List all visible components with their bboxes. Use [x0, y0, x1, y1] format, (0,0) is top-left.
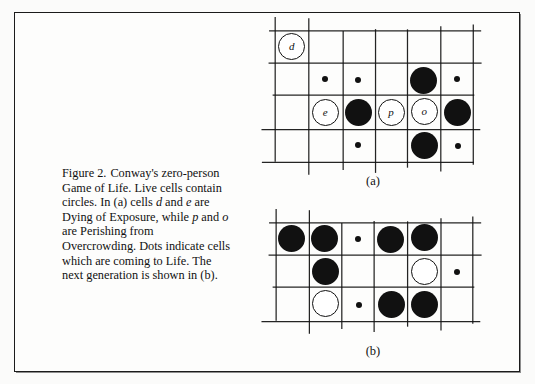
live-cell-filled — [411, 224, 438, 251]
life-grid-a: depo — [260, 14, 490, 178]
birth-dot — [455, 143, 461, 149]
caption-body: Conway's zero-person Game of Life. Live … — [62, 166, 230, 282]
birth-dot — [355, 236, 361, 242]
birth-dot — [356, 302, 362, 308]
figure-a-label: (a) — [353, 174, 393, 189]
cell-letter-e: e — [313, 100, 338, 125]
labeled-cell-o: o — [411, 98, 438, 125]
live-cell-filled — [410, 67, 437, 94]
live-cell-filled — [378, 291, 405, 318]
caption-figure-number: Figure 2. — [62, 166, 106, 180]
figure-page: Figure 2.Conway's zero-person Game of Li… — [0, 0, 535, 384]
live-cell-filled — [345, 99, 372, 126]
cell-letter-d: d — [279, 34, 304, 59]
cell-letter-o: o — [412, 99, 437, 124]
figure-b-label: (b) — [353, 344, 393, 359]
labeled-cell-d: d — [278, 33, 305, 60]
caption-italic-p: p — [192, 210, 198, 224]
caption-italic-d: d — [156, 195, 162, 209]
birth-dot — [355, 77, 361, 83]
live-cell-open — [312, 290, 339, 317]
live-cell-filled — [377, 226, 404, 253]
live-cell-filled — [278, 225, 305, 252]
labeled-cell-p: p — [378, 99, 405, 126]
figure-caption: Figure 2.Conway's zero-person Game of Li… — [62, 166, 230, 283]
cell-letter-p: p — [379, 100, 404, 125]
birth-dot — [454, 269, 460, 275]
caption-italic-e: e — [186, 195, 191, 209]
labeled-cell-e: e — [312, 99, 339, 126]
life-grid-b — [260, 206, 490, 337]
caption-italic-o: o — [222, 210, 228, 224]
live-cell-open — [411, 258, 438, 285]
live-cell-filled — [312, 258, 339, 285]
